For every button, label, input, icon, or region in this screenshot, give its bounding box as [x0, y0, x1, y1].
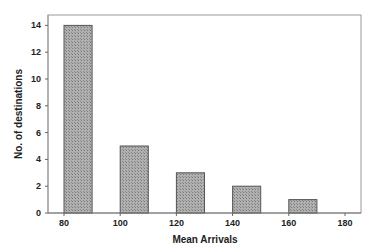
y-axis: 02468101214 [31, 15, 48, 218]
bar [289, 200, 317, 213]
bar [120, 146, 148, 213]
y-tick-label: 8 [36, 101, 41, 111]
y-tick-label: 14 [31, 20, 41, 30]
bar [176, 173, 204, 213]
bar [233, 186, 261, 213]
x-tick-label: 180 [337, 218, 352, 228]
bar [64, 25, 92, 213]
y-tick-label: 2 [36, 181, 41, 191]
x-axis-label: Mean Arrivals [172, 234, 238, 245]
x-tick-label: 120 [169, 218, 184, 228]
x-tick-label: 80 [59, 218, 69, 228]
x-tick-label: 100 [113, 218, 128, 228]
y-tick-label: 4 [36, 154, 41, 164]
x-tick-label: 160 [281, 218, 296, 228]
y-tick-label: 0 [36, 208, 41, 218]
y-tick-label: 10 [31, 74, 41, 84]
y-tick-label: 12 [31, 47, 41, 57]
x-tick-label: 140 [225, 218, 240, 228]
histogram-chart: 02468101214 80100120140160180 Mean Arriv… [0, 0, 378, 252]
y-tick-label: 6 [36, 128, 41, 138]
y-axis-label: No. of destinations [13, 69, 24, 159]
x-axis: 80100120140160180 [48, 213, 361, 228]
